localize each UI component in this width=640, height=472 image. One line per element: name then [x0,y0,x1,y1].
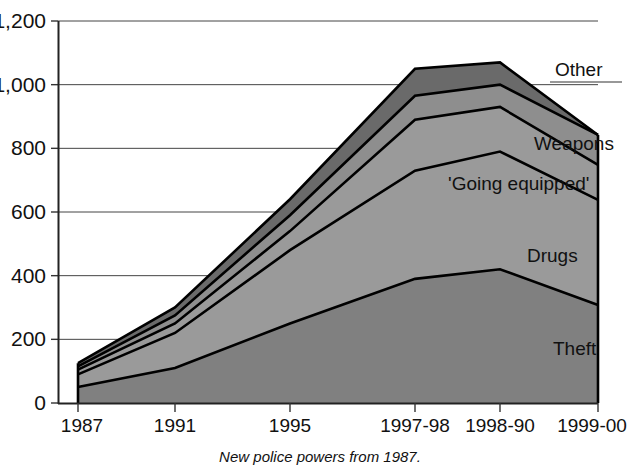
y-axis-tick-label: 1,000 [0,73,46,96]
series-label-going-equipped: 'Going equipped' [448,173,589,194]
x-axis-tick-label: 1987 [61,415,103,436]
x-axis-tick-label: 1999-00 [557,415,627,436]
x-axis-tick-label: 1995 [269,415,311,436]
y-axis-tick-label: 1,200 [0,9,46,32]
series-label-drugs: Drugs [527,245,578,266]
y-axis-tick-label: 0 [34,391,46,414]
series-label-weapons: Weapons [534,133,614,154]
y-axis-tick-label: 400 [11,264,46,287]
series-label-other: Other [555,59,603,80]
y-axis-tick-label: 600 [11,200,46,223]
series-label-theft: Theft [553,338,597,359]
y-axis-tick-label: 200 [11,327,46,350]
x-axis-tick-label: 1998-90 [465,415,535,436]
chart-caption: New police powers from 1987. [219,448,421,465]
y-axis-tick-label: 800 [11,136,46,159]
x-axis-tick-label: 1997-98 [380,415,450,436]
chart-svg: 02004006008001,0001,200 1987199119951997… [0,0,640,472]
stacked-area-chart: 02004006008001,0001,200 1987199119951997… [0,0,640,472]
x-axis-tick-label: 1991 [154,415,196,436]
